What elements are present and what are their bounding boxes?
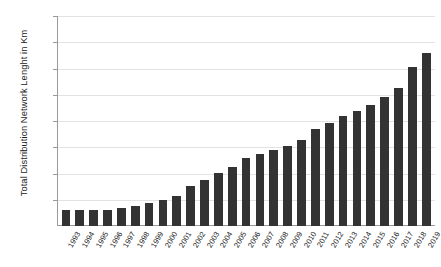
x-label-slot: 1999	[142, 228, 156, 267]
x-axis-labels: 1993199419951996199719981999200020012002…	[57, 228, 435, 267]
bar	[353, 111, 362, 227]
x-label-slot: 1995	[87, 228, 101, 267]
bar	[214, 173, 223, 226]
x-label-slot: 1998	[128, 228, 142, 267]
x-label-slot: 2009	[281, 228, 295, 267]
x-label-slot: 2017	[392, 228, 406, 267]
bar	[380, 97, 389, 226]
x-label-slot: 2001	[170, 228, 184, 267]
bar	[159, 200, 168, 226]
x-label-slot: 2003	[198, 228, 212, 267]
bar	[75, 210, 84, 226]
bar-slot	[142, 16, 156, 226]
bar	[62, 210, 71, 226]
bar	[131, 206, 140, 226]
bar-slot	[364, 16, 378, 226]
x-label-slot: 2008	[267, 228, 281, 267]
x-label-slot: 2004	[211, 228, 225, 267]
x-label-slot: 2014	[350, 228, 364, 267]
bar-series	[57, 16, 435, 226]
bar-slot	[225, 16, 239, 226]
x-label-slot: 2010	[295, 228, 309, 267]
bar	[228, 167, 237, 226]
bar-slot	[239, 16, 253, 226]
x-label-slot: 2006	[239, 228, 253, 267]
bar-slot	[308, 16, 322, 226]
bar-slot	[87, 16, 101, 226]
bar-slot	[419, 16, 433, 226]
bar-slot	[114, 16, 128, 226]
bar-slot	[336, 16, 350, 226]
bar-slot	[59, 16, 73, 226]
bar-slot	[281, 16, 295, 226]
plot-area: 5001000150020002500300035004000	[57, 16, 435, 226]
bar-slot	[295, 16, 309, 226]
x-label-slot: 2002	[184, 228, 198, 267]
x-label-slot: 2007	[253, 228, 267, 267]
bar-slot	[156, 16, 170, 226]
bar	[394, 88, 403, 226]
bar-slot	[253, 16, 267, 226]
x-label-slot: 1993	[59, 228, 73, 267]
x-label-slot: 1997	[114, 228, 128, 267]
bar	[325, 123, 334, 226]
bar-slot	[73, 16, 87, 226]
bar	[269, 150, 278, 226]
bar	[200, 180, 209, 226]
bar-slot	[101, 16, 115, 226]
x-label-slot: 1994	[73, 228, 87, 267]
bar	[89, 210, 98, 226]
bar-slot	[128, 16, 142, 226]
x-label-slot: 2016	[378, 228, 392, 267]
bar-slot	[405, 16, 419, 226]
bar-slot	[392, 16, 406, 226]
bar-slot	[378, 16, 392, 226]
bar	[242, 158, 251, 226]
bar	[117, 208, 126, 226]
bar	[186, 186, 195, 226]
bar-slot	[184, 16, 198, 226]
bar-slot	[170, 16, 184, 226]
bar	[422, 53, 431, 226]
bar	[256, 154, 265, 226]
bar	[172, 196, 181, 226]
bar	[311, 129, 320, 226]
x-label-slot: 2011	[308, 228, 322, 267]
x-tick-label: 2019	[426, 230, 441, 249]
bar	[103, 210, 112, 226]
bar-slot	[350, 16, 364, 226]
bar-slot	[211, 16, 225, 226]
bar	[283, 146, 292, 226]
bar-slot	[267, 16, 281, 226]
bar-chart: Total Distribution Network Lenght in Km …	[0, 0, 441, 267]
x-label-slot: 2015	[364, 228, 378, 267]
x-label-slot: 2018	[405, 228, 419, 267]
x-label-slot: 1996	[101, 228, 115, 267]
bar-slot	[322, 16, 336, 226]
bar	[408, 67, 417, 226]
x-label-slot: 2005	[225, 228, 239, 267]
bar	[145, 203, 154, 226]
bar-slot	[198, 16, 212, 226]
x-label-slot: 2000	[156, 228, 170, 267]
bar	[339, 116, 348, 226]
x-label-slot: 2012	[322, 228, 336, 267]
x-label-slot: 2013	[336, 228, 350, 267]
bar	[366, 105, 375, 226]
y-axis-title: Total Distribution Network Lenght in Km	[19, 3, 29, 223]
bar	[297, 140, 306, 226]
x-label-slot: 2019	[419, 228, 433, 267]
